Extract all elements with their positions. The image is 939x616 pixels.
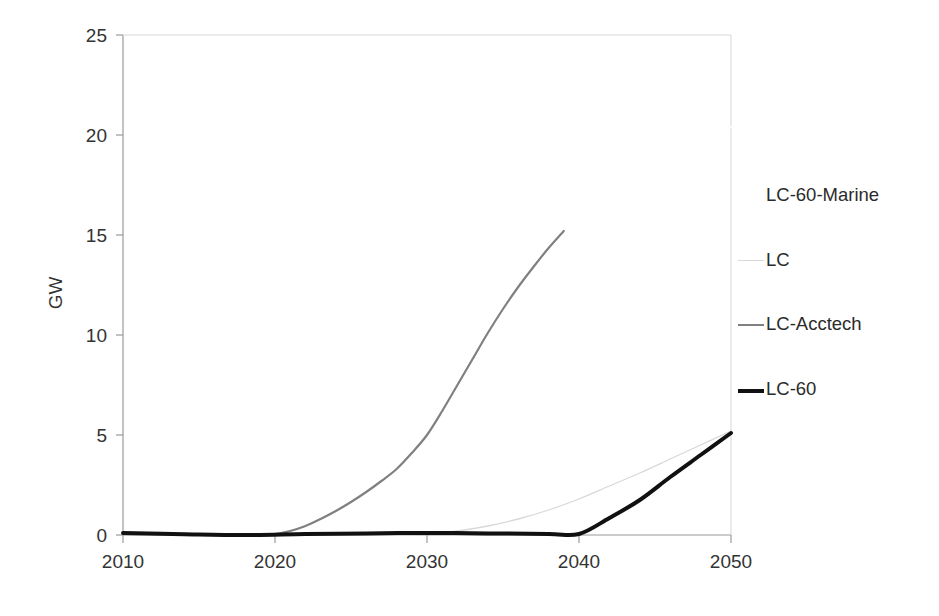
- legend-label: LC-60: [766, 380, 816, 399]
- series-line-lc: [123, 431, 731, 535]
- x-axis-tick-label: 2040: [558, 551, 600, 572]
- line-chart-plot: 0510152025 20102020203020402050 GW: [0, 0, 939, 616]
- y-axis-tick-label: 0: [96, 525, 107, 546]
- x-axis-tick-label: 2020: [254, 551, 296, 572]
- y-axis-tick-label: 10: [86, 325, 107, 346]
- y-axis-tick-label: 25: [86, 25, 107, 46]
- series-line-lc-60-marine: [625, 127, 731, 175]
- series-line-lc-acctech: [123, 231, 564, 535]
- legend-label: LC-Acctech: [766, 315, 862, 334]
- legend-swatch: [738, 260, 764, 261]
- legend-label: LC-60-Marine: [766, 186, 879, 205]
- y-axis-title: GW: [45, 277, 66, 310]
- legend-swatch: [738, 324, 764, 326]
- data-series-group: [123, 127, 731, 535]
- series-line-lc-60: [123, 433, 731, 535]
- legend-swatch: [738, 195, 764, 197]
- legend-swatch: [738, 389, 764, 393]
- legend-label: LC: [766, 251, 790, 270]
- x-axis-tick-label: 2030: [406, 551, 448, 572]
- x-axis-tick-labels: 20102020203020402050: [102, 551, 752, 572]
- x-axis-tick-label: 2050: [710, 551, 752, 572]
- y-axis-tick-label: 20: [86, 125, 107, 146]
- y-axis-tick-label: 5: [96, 425, 107, 446]
- x-axis-tick-label: 2010: [102, 551, 144, 572]
- y-axis-tick-labels: 0510152025: [86, 25, 107, 546]
- axis-lines: [123, 35, 731, 535]
- chart-container: 0510152025 20102020203020402050 GW LC-60…: [0, 0, 939, 616]
- y-axis-ticks: [116, 35, 123, 535]
- y-axis-tick-label: 15: [86, 225, 107, 246]
